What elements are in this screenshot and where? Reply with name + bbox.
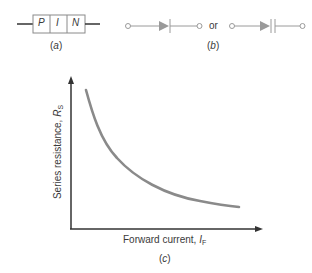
x-axis-label: Forward current, IF — [123, 234, 206, 246]
or-separator: or — [209, 20, 218, 31]
x-axis-arrow-icon — [255, 226, 263, 232]
caption-b: (b) — [207, 40, 219, 51]
segment-p: P — [38, 17, 45, 28]
resistance-curve — [86, 90, 239, 207]
segment-n: N — [72, 17, 79, 28]
pin-diode-symbol — [126, 19, 203, 33]
y-axis-label: Series resistance, RS — [52, 105, 64, 199]
segment-i: I — [56, 17, 59, 28]
pin-diode-symbol-alt — [230, 19, 306, 33]
y-axis-arrow-icon — [68, 76, 74, 84]
caption-a: (a) — [50, 40, 62, 51]
caption-c: (c) — [159, 253, 171, 264]
chart-axes — [68, 76, 263, 232]
figure-canvas — [0, 0, 312, 273]
